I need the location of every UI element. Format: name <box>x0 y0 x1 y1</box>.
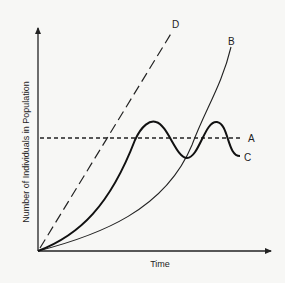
population-growth-diagram: D B A C Time Number of Individuals in Po… <box>0 0 285 283</box>
curve-d <box>40 32 172 248</box>
label-curve-d: D <box>172 19 179 30</box>
curve-b <box>38 47 231 251</box>
label-curve-b: B <box>228 36 235 47</box>
y-axis-label: Number of Individuals in Population <box>21 81 31 223</box>
x-axis-label: Time <box>150 259 170 269</box>
label-curve-a: A <box>248 133 255 144</box>
label-curve-c: C <box>244 152 251 163</box>
curve-c <box>38 122 240 251</box>
